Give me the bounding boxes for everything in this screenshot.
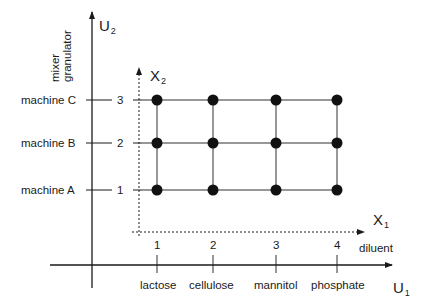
x1-tick-1: 1 xyxy=(154,240,160,252)
grid-columns xyxy=(157,100,337,190)
x1-tick-3: 3 xyxy=(273,240,279,252)
u1-category-cellulose: cellulose xyxy=(189,280,234,292)
point-2-1 xyxy=(208,185,219,196)
x2-tick-1: 1 xyxy=(117,185,123,197)
point-4-3 xyxy=(332,95,343,106)
factorial-design-diagram: U2 X2 X1 U1 mixer granulator machine C m… xyxy=(0,0,427,305)
point-4-2 xyxy=(332,138,343,149)
u1-category-mannitol: mannitol xyxy=(254,280,297,292)
x1-tick-2: 2 xyxy=(210,240,216,252)
u1-ticks xyxy=(157,255,337,273)
point-3-1 xyxy=(271,185,282,196)
u2-category-title-line1: mixer xyxy=(50,54,62,82)
x2-tick-2: 2 xyxy=(117,138,123,150)
u2-category-title-line2: granulator xyxy=(62,30,74,82)
u2-category-machine-b: machine B xyxy=(21,138,75,150)
u2-axis-label: U2 xyxy=(99,18,116,36)
x2-axis-label: X2 xyxy=(150,68,166,86)
point-1-1 xyxy=(152,185,163,196)
u2-category-machine-c: machine C xyxy=(21,95,76,107)
u1-category-title: diluent xyxy=(359,243,393,255)
row-leader-lines xyxy=(86,100,142,190)
point-1-2 xyxy=(152,138,163,149)
u1-axis-label: U1 xyxy=(393,280,410,298)
x2-tick-3: 3 xyxy=(117,95,123,107)
point-2-2 xyxy=(208,138,219,149)
point-2-3 xyxy=(208,95,219,106)
point-3-2 xyxy=(271,138,282,149)
u1-category-lactose: lactose xyxy=(140,280,176,292)
u1-category-phosphate: phosphate xyxy=(311,280,365,292)
x1-tick-4: 4 xyxy=(334,240,340,252)
x1-axis-label: X1 xyxy=(373,212,389,230)
point-4-1 xyxy=(332,185,343,196)
point-3-3 xyxy=(271,95,282,106)
grid-rows xyxy=(142,100,337,190)
u2-category-machine-a: machine A xyxy=(21,185,75,197)
design-points xyxy=(152,95,343,196)
point-1-3 xyxy=(152,95,163,106)
